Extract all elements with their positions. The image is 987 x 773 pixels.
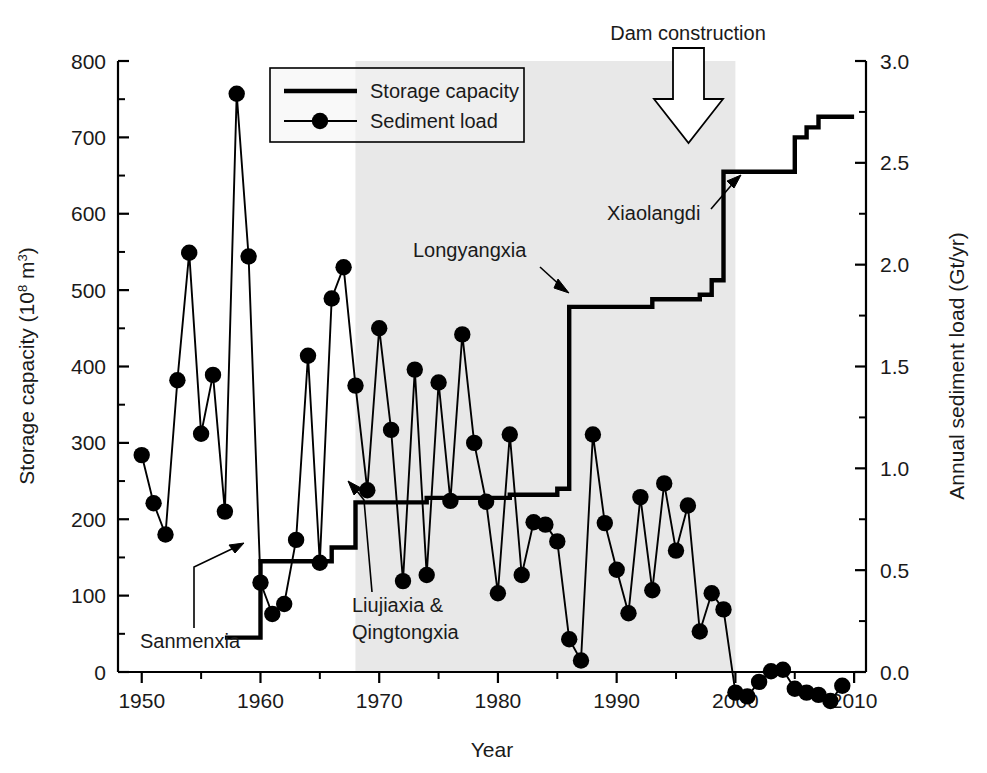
sediment-load-point-1995 [668, 542, 684, 558]
sediment-load-point-1978 [466, 435, 482, 451]
sediment-load-point-1988 [585, 426, 601, 442]
y-right-tick-0.5: 0.5 [880, 559, 909, 582]
sediment-load-point-1980 [490, 585, 506, 601]
legend-label-storage-capacity: Storage capacity [370, 80, 519, 102]
sediment-load-point-2008 [822, 693, 838, 709]
sediment-load-point-1968 [347, 377, 363, 393]
sediment-load-point-1973 [407, 361, 423, 377]
annotation-longyangxia-label: Longyangxia [413, 239, 527, 261]
sediment-load-point-1976 [442, 493, 458, 509]
y-right-tick-1.5: 1.5 [880, 355, 909, 378]
sediment-load-point-1950 [134, 447, 150, 463]
x-tick-1990: 1990 [593, 689, 640, 712]
sediment-load-point-1987 [573, 652, 589, 668]
y-left-tick-300: 300 [71, 431, 106, 454]
sediment-load-point-1962 [276, 596, 292, 612]
sediment-load-point-2001 [739, 688, 755, 704]
sediment-load-point-1981 [502, 426, 518, 442]
sediment-load-point-1954 [181, 245, 197, 261]
annotation-xiaolangdi-label: Xiaolangdi [607, 202, 700, 224]
sediment-load-point-1982 [514, 567, 530, 583]
x-tick-1950: 1950 [118, 689, 165, 712]
figure-root: 0100200300400500600700800 0.00.51.01.52.… [0, 0, 987, 773]
sediment-load-point-1975 [430, 374, 446, 390]
x-tick-1960: 1960 [237, 689, 284, 712]
sediment-load-point-1991 [620, 605, 636, 621]
sediment-load-point-1966 [324, 290, 340, 306]
sediment-load-point-1989 [597, 515, 613, 531]
annotation-dam-construction-label: Dam construction [610, 22, 766, 44]
y-right-tick-2.5: 2.5 [880, 151, 909, 174]
annotation-sanmenxia-label: Sanmenxia [140, 630, 241, 652]
y-left-tick-600: 600 [71, 202, 106, 225]
annotation-liujiaxia-label: Liujiaxia & [352, 594, 444, 616]
y-right-tick-2: 2.0 [880, 253, 909, 276]
y-left-tick-800: 800 [71, 50, 106, 73]
sediment-load-point-1992 [632, 489, 648, 505]
sediment-load-point-1951 [145, 495, 161, 511]
sediment-load-point-2009 [834, 678, 850, 694]
y-axis-right-title: Annual sediment load (Gt/yr) [945, 232, 968, 499]
sediment-load-point-1957 [217, 503, 233, 519]
sediment-load-point-1955 [193, 426, 209, 442]
y-left-tick-0: 0 [94, 661, 106, 684]
y-right-tick-1: 1.0 [880, 457, 909, 480]
y-left-tick-200: 200 [71, 508, 106, 531]
sediment-load-point-1952 [157, 526, 173, 542]
y-left-tick-100: 100 [71, 584, 106, 607]
sediment-load-point-1998 [704, 585, 720, 601]
x-tick-1970: 1970 [356, 689, 403, 712]
y-left-tick-500: 500 [71, 279, 106, 302]
sediment-load-point-1964 [300, 348, 316, 364]
sediment-load-point-1979 [478, 494, 494, 510]
sediment-load-point-1984 [537, 516, 553, 532]
sediment-load-point-1960 [252, 574, 268, 590]
y-axis-left-title: Storage capacity (108 m3) [15, 247, 38, 484]
sediment-load-point-1999 [715, 601, 731, 617]
y-axis-left-tick-labels: 0100200300400500600700800 [71, 50, 106, 684]
x-axis-title: Year [471, 738, 513, 761]
sediment-load-point-1997 [692, 623, 708, 639]
sediment-load-point-1953 [169, 372, 185, 388]
sediment-load-point-1993 [644, 582, 660, 598]
sediment-load-point-1996 [680, 497, 696, 513]
y-left-tick-700: 700 [71, 126, 106, 149]
sediment-load-point-1990 [609, 562, 625, 578]
sediment-load-point-1963 [288, 532, 304, 548]
sediment-load-point-1959 [240, 248, 256, 264]
y-right-tick-3: 3.0 [880, 50, 909, 73]
y-right-tick-0: 0.0 [880, 661, 909, 684]
sediment-load-point-1956 [205, 367, 221, 383]
sediment-load-point-1986 [561, 631, 577, 647]
sediment-load-point-1958 [229, 86, 245, 102]
sediment-load-point-1970 [371, 320, 387, 336]
legend-swatch-sediment-load-dot [312, 113, 328, 129]
sediment-storage-chart: 0100200300400500600700800 0.00.51.01.52.… [0, 0, 987, 773]
x-tick-1980: 1980 [475, 689, 522, 712]
sediment-load-point-1967 [335, 259, 351, 275]
legend-label-sediment-load: Sediment load [370, 110, 498, 132]
sediment-load-point-1965 [312, 555, 328, 571]
y-left-tick-400: 400 [71, 355, 106, 378]
sediment-load-point-2004 [775, 662, 791, 678]
sediment-load-point-1972 [395, 573, 411, 589]
annotation-qingtongxia-label: Qingtongxia [352, 621, 460, 643]
sediment-load-point-1971 [383, 422, 399, 438]
sediment-load-point-1985 [549, 533, 565, 549]
legend: Storage capacity Sediment load [270, 68, 524, 142]
sediment-load-point-1974 [419, 567, 435, 583]
sediment-load-point-1977 [454, 326, 470, 342]
sediment-load-point-1994 [656, 475, 672, 491]
